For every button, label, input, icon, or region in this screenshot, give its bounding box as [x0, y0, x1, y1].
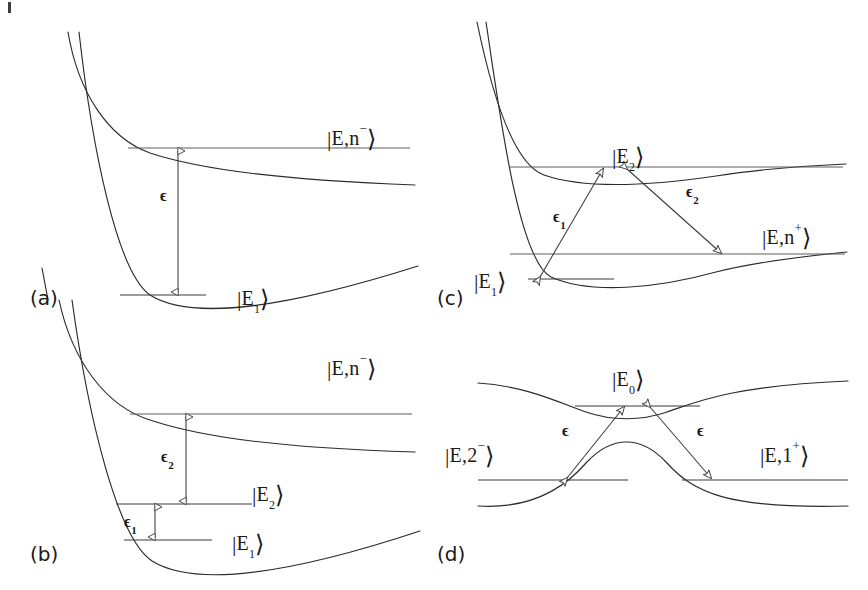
panel-b-epsilon1-label: ϵ1 [124, 514, 136, 533]
panel-d-transition-arrow-right [650, 407, 711, 478]
panel-d-epsilon-left-label: ϵ [562, 423, 569, 439]
energy-level-figure: (a) (b) (c) (d) |E,n−⟩ |E1⟩ ϵ |E,n−⟩ |E2… [0, 0, 868, 590]
panel-c-epsilon2-label: ϵ2 [686, 184, 698, 203]
panel-b-state-label-En-minus: |E,n−⟩ [327, 355, 376, 379]
panel-d-state-label-E1-plus: |E,1+⟩ [760, 442, 809, 466]
panel-c-state-label-E1: |E1⟩ [474, 268, 506, 295]
panel-c-state-label-En-plus: |E,n+⟩ [762, 224, 811, 248]
panel-a-state-label-En-minus: |E,n−⟩ [327, 125, 376, 149]
panel-c-transition-arrow-epsilon1 [540, 169, 603, 277]
panel-c-epsilon1-label: ϵ1 [553, 209, 565, 228]
panel-d-state-label-E2-minus: |E,2−⟩ [445, 442, 494, 466]
panel-b-state-label-E1: |E1⟩ [232, 530, 264, 557]
panel-a-lower-potential-curve [79, 32, 418, 309]
panel-c-state-label-E2: |E2⟩ [612, 143, 644, 170]
panel-a-epsilon-label: ϵ [160, 188, 167, 204]
figure-canvas [0, 0, 868, 590]
panel-d-upper-adiabatic-curve [478, 381, 848, 419]
panel-a-graphics [42, 32, 418, 309]
panel-d-state-label-E0: |E0⟩ [612, 366, 644, 393]
panel-c-upper-potential-curve [477, 22, 846, 185]
panel-tag-a: (a) [30, 288, 58, 308]
panel-b-epsilon2-label: ϵ2 [161, 449, 173, 468]
panel-a-state-label-E1: |E1⟩ [237, 285, 269, 312]
panel-tag-b: (b) [30, 544, 58, 564]
panel-b-state-label-E2: |E2⟩ [252, 481, 284, 508]
panel-tag-d: (d) [437, 544, 465, 564]
panel-d-transition-arrow-left [567, 407, 624, 478]
panel-a-upper-potential-curve [68, 32, 415, 185]
panel-d-epsilon-right-label: ϵ [697, 423, 704, 439]
panel-tag-c: (c) [437, 288, 464, 308]
